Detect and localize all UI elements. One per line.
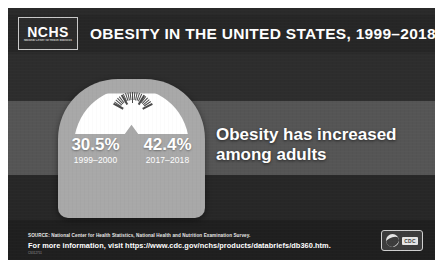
weighing-scale-graphic: 30.5% 1999–2000 42.4% 2017–2018 bbox=[58, 79, 205, 218]
source-note: SOURCE: National Center for Health Stati… bbox=[28, 233, 250, 238]
nchs-logo: NCHS National Center for Health Statisti… bbox=[18, 17, 78, 50]
scale-statistics: 30.5% 1999–2000 42.4% 2017–2018 bbox=[58, 135, 205, 166]
scale-dial bbox=[74, 88, 189, 134]
poster-footer: SOURCE: National Center for Health Stati… bbox=[8, 220, 435, 260]
stat-item: 42.4% 2017–2018 bbox=[139, 135, 197, 166]
dial-tick-marks bbox=[74, 88, 189, 134]
nchs-logo-subtitle: National Center for Health Statistics bbox=[23, 39, 73, 42]
headline-text: Obesity has increased among adults bbox=[216, 125, 426, 165]
stat-item: 30.5% 1999–2000 bbox=[67, 135, 125, 166]
cdc-swoosh-icon bbox=[386, 234, 399, 247]
page-title: OBESITY IN THE UNITED STATES, 1999–2018 bbox=[90, 25, 435, 43]
more-information-url[interactable]: For more information, visit https://www.… bbox=[28, 241, 331, 250]
background-band-upper bbox=[8, 54, 435, 101]
poster-header: NCHS National Center for Health Statisti… bbox=[8, 15, 435, 52]
infographic-poster: NCHS National Center for Health Statisti… bbox=[8, 8, 435, 260]
stat-percent: 30.5% bbox=[67, 135, 125, 154]
cdc-wordmark: CDC bbox=[402, 237, 417, 245]
cdc-logo: CDC bbox=[381, 230, 423, 251]
stat-percent: 42.4% bbox=[139, 135, 197, 154]
publication-code: CS312751 bbox=[28, 251, 42, 255]
stat-years: 1999–2000 bbox=[67, 154, 125, 166]
stat-years: 2017–2018 bbox=[139, 154, 197, 166]
nchs-logo-acronym: NCHS bbox=[27, 25, 69, 39]
